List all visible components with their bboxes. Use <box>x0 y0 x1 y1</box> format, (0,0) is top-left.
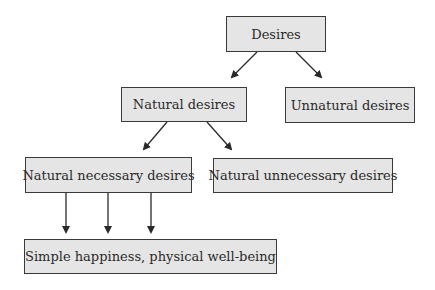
arrow-desires-to-unnatural <box>296 52 321 77</box>
node-natural-desires: Natural desires <box>121 87 247 122</box>
node-natural-necessary-desires: Natural necessary desires <box>25 157 192 193</box>
node-unnatural-desires: Unnatural desires <box>285 87 415 123</box>
arrow-desires-to-natural <box>232 52 257 77</box>
arrow-natural-to-unnecessary <box>207 122 231 149</box>
node-natural-unnecessary-desires: Natural unnecessary desires <box>213 158 393 193</box>
node-desires: Desires <box>226 16 326 52</box>
arrow-natural-to-necessary <box>144 122 167 149</box>
node-simple-happiness: Simple happiness, physical well-being <box>24 239 277 274</box>
